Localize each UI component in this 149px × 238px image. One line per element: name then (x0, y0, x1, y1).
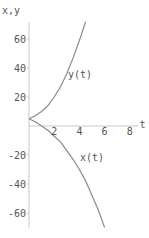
y-axis-label: x,y (2, 5, 20, 16)
x-tick-label: 8 (127, 126, 133, 137)
series-label-x: x(t) (80, 152, 104, 163)
parametric-chart: 2468604020-20-40-60x,yty(t)x(t) (0, 0, 149, 238)
labels: 2468604020-20-40-60x,yty(t)x(t) (2, 5, 145, 219)
x-tick-label: 4 (76, 126, 82, 137)
x-axis-label: t (139, 119, 145, 130)
y-tick-label: -20 (8, 150, 26, 161)
y-tick-label: 60 (14, 34, 26, 45)
y-tick-label: 40 (14, 63, 26, 74)
axes (27, 23, 138, 228)
y-tick-label: -60 (8, 208, 26, 219)
curves (29, 22, 105, 228)
y-tick-label: -40 (8, 179, 26, 190)
series-label-y: y(t) (68, 69, 92, 80)
x-tick-label: 6 (102, 126, 108, 137)
y-tick-label: 20 (14, 92, 26, 103)
x-tick-label: 2 (51, 126, 57, 137)
curve-xt (29, 119, 105, 228)
